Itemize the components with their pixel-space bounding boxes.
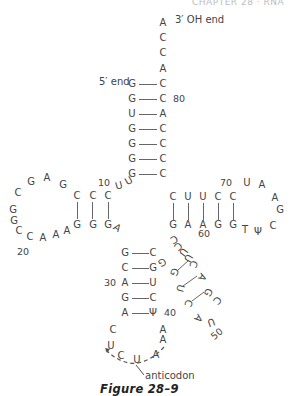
figure-caption: Figure 28–9 — [100, 382, 179, 396]
anticodon-arc — [106, 347, 164, 363]
variable-loop-bond — [183, 276, 197, 286]
anticodon-label: anticodon — [145, 371, 195, 381]
anticodon-pointer — [136, 365, 144, 375]
variable-loop-bond — [192, 292, 204, 301]
variable-loop-bond — [178, 260, 189, 270]
